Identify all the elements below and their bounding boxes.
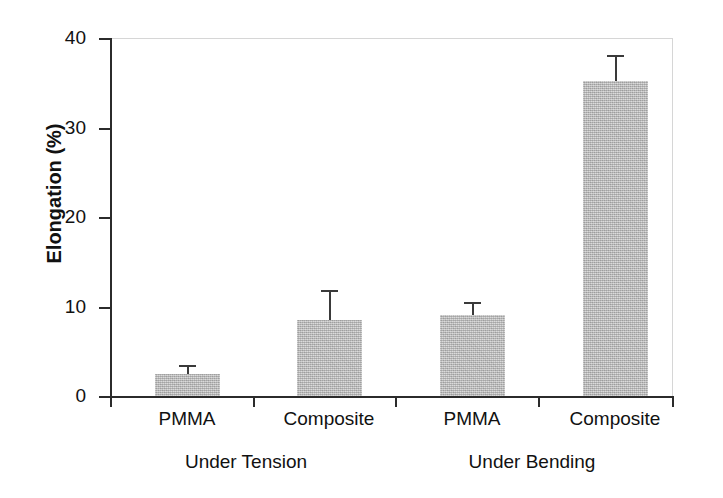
x-tick-0 bbox=[110, 396, 112, 407]
bar-pmma-tension bbox=[155, 374, 220, 396]
x-axis-line bbox=[110, 396, 674, 398]
y-tick-10 bbox=[99, 307, 111, 309]
error-cap-pmma-bending bbox=[464, 302, 481, 304]
error-stem-pmma-bending bbox=[472, 302, 474, 315]
error-stem-composite-tension bbox=[329, 290, 331, 320]
y-tick-label-wrap-30: 30 bbox=[22, 118, 86, 138]
group-label-under-tension: Under Tension bbox=[176, 451, 316, 473]
error-cap-composite-tension bbox=[321, 290, 338, 292]
category-label-2: PMMA bbox=[422, 408, 522, 430]
y-tick-label-10: 10 bbox=[22, 297, 86, 316]
y-tick-30 bbox=[99, 128, 111, 130]
x-tick-2 bbox=[395, 396, 397, 407]
y-tick-label-wrap-20: 20 bbox=[22, 207, 86, 227]
y-tick-label-wrap-0: 0 bbox=[22, 386, 86, 406]
category-label-3: Composite bbox=[560, 408, 670, 430]
x-tick-4 bbox=[672, 396, 674, 407]
error-cap-composite-bending bbox=[607, 55, 624, 57]
y-tick-20 bbox=[99, 217, 111, 219]
y-tick-label-30: 30 bbox=[22, 118, 86, 137]
x-tick-1 bbox=[253, 396, 255, 407]
bar-pmma-bending bbox=[440, 315, 505, 396]
y-tick-label-wrap-10: 10 bbox=[22, 297, 86, 317]
bar-composite-bending bbox=[583, 81, 648, 396]
bar-composite-tension bbox=[297, 320, 362, 396]
error-stem-composite-bending bbox=[615, 55, 617, 81]
y-tick-40 bbox=[99, 38, 111, 40]
y-tick-label-20: 20 bbox=[22, 207, 86, 226]
y-tick-label-wrap-40: 40 bbox=[22, 28, 86, 48]
category-label-0: PMMA bbox=[137, 408, 237, 430]
group-label-under-bending: Under Bending bbox=[462, 451, 602, 473]
y-tick-label-40: 40 bbox=[22, 28, 86, 47]
y-tick-label-0: 0 bbox=[22, 386, 86, 405]
bar-chart: Elongation (%) 40 30 20 10 0 PMMA Compos bbox=[0, 0, 723, 498]
category-label-1: Composite bbox=[274, 408, 384, 430]
x-tick-3 bbox=[538, 396, 540, 407]
error-cap-pmma-tension bbox=[179, 365, 196, 367]
